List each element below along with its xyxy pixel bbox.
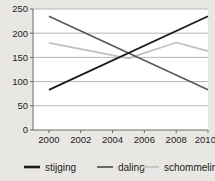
line-chart: 050100150200250 200020022004200620082010… (0, 0, 215, 181)
y-tick-label: 250 (12, 3, 28, 14)
x-tick-label: 2004 (102, 134, 123, 145)
legend-label-daling: daling (118, 162, 145, 173)
x-tick-label: 2008 (166, 134, 187, 145)
y-tick-label: 0 (23, 124, 28, 135)
x-tick-label: 2010? (195, 134, 215, 145)
y-tick-label: 200 (12, 28, 28, 39)
y-tick-label: 50 (17, 100, 28, 111)
legend-label-stijging: stijging (45, 162, 76, 173)
chart-legend: stijgingdalingschommeling (24, 162, 215, 173)
x-tick-label: 2000 (38, 134, 59, 145)
legend-label-schommeling: schommeling (164, 162, 215, 173)
y-tick-label: 100 (12, 76, 28, 87)
plot-area-background (33, 9, 208, 130)
x-tick-label: 2006 (134, 134, 155, 145)
chart-figure: 050100150200250 200020022004200620082010… (0, 0, 215, 181)
x-tick-label: 2002 (70, 134, 91, 145)
y-tick-label: 150 (12, 52, 28, 63)
